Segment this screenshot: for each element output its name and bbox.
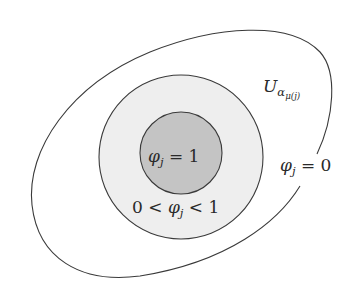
outer-label-base: U [263,76,277,96]
outer-region-label: Uαμ(j) [263,78,300,100]
middle-region-label: 0 < φj < 1 [132,199,219,220]
diagram-canvas: Uαμ(j) φj = 1 0 < φj < 1 φj = 0 [0,0,356,300]
outer-label-sub: αμ(j) [277,85,300,99]
inner-region-label: φj = 1 [148,148,199,169]
outer-annotation-label: φj = 0 [280,157,331,178]
